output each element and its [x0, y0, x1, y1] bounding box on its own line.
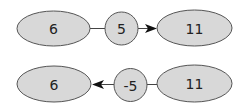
- node-label: 6: [50, 77, 59, 93]
- node-start: 6: [17, 66, 91, 102]
- diagram-backward: 6 -5 11: [17, 65, 232, 102]
- node-operation: -5: [114, 69, 147, 102]
- number-line-diagram: 6 5 11 6 -5 11: [0, 0, 248, 112]
- node-end: 11: [157, 10, 232, 46]
- node-label: 11: [186, 76, 204, 92]
- diagram-forward: 6 5 11: [17, 10, 232, 46]
- node-label: -5: [124, 78, 138, 94]
- node-label: 11: [186, 21, 204, 37]
- node-end: 11: [157, 65, 232, 102]
- node-start: 6: [17, 11, 90, 46]
- node-label: 5: [117, 21, 126, 37]
- node-operation: 5: [105, 12, 138, 45]
- node-label: 6: [49, 21, 58, 37]
